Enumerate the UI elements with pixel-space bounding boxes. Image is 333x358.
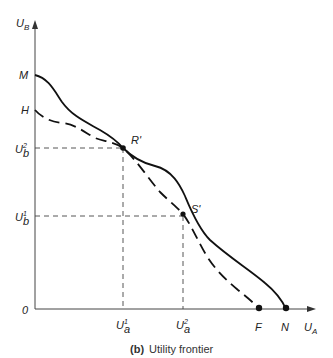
y-axis-label: UB [16,17,30,32]
utility-frontier-diagram: UB M H U2 b U1 b R' S' 0 U1 a U2 a F N U… [0,0,333,358]
label-ub1-sub: b [23,215,29,227]
point-s [180,211,185,216]
x-axis-label: UA [304,321,317,336]
frontier-hf-dashed [35,110,259,309]
label-n: N [281,321,289,333]
label-h: H [21,104,29,116]
x-axis-arrow-icon [307,306,316,312]
label-s: S' [191,203,201,215]
label-m: M [19,69,29,81]
label-ua1-sub: a [124,323,130,335]
y-axis-arrow-icon [32,20,38,29]
label-r: R' [131,134,142,146]
label-f: F [255,321,263,333]
label-ub2-sub: b [23,147,29,159]
point-r [120,145,126,151]
figure-caption: (b)Utility frontier [130,343,214,355]
label-ua2-sub: a [184,323,190,335]
origin-label: 0 [22,304,29,316]
point-f [256,305,262,311]
point-n [283,305,289,311]
